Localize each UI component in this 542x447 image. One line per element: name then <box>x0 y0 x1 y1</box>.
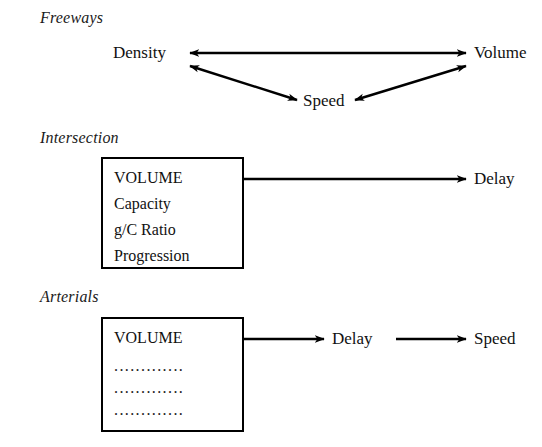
arrow-density-speed <box>190 66 297 100</box>
section-label-intersection: Intersection <box>40 129 119 147</box>
node-arterials-speed: Speed <box>474 330 516 347</box>
intersection-box-line-volume: VOLUME <box>114 170 182 186</box>
arterials-box-placeholder-row-2: ............. <box>114 380 184 396</box>
node-freeways-density: Density <box>113 44 166 61</box>
traffic-relationship-diagram: Freeways Density Volume Speed Intersecti… <box>0 0 542 447</box>
intersection-box-line-gc-ratio: g/C Ratio <box>114 222 176 238</box>
arterials-box-line-volume: VOLUME <box>114 330 182 346</box>
node-arterials-delay: Delay <box>332 330 373 347</box>
node-intersection-delay: Delay <box>474 170 515 187</box>
arrow-speed-volume <box>355 66 466 100</box>
section-label-freeways: Freeways <box>40 9 103 27</box>
node-freeways-speed: Speed <box>303 92 345 109</box>
section-label-arterials: Arterials <box>40 288 99 306</box>
intersection-box-line-progression: Progression <box>114 248 190 264</box>
arterials-box-placeholder-row-1: ............. <box>114 358 184 374</box>
arterials-box-placeholder-row-3: ............. <box>114 402 184 418</box>
node-freeways-volume: Volume <box>474 44 527 61</box>
diagram-arrow-layer <box>0 0 542 447</box>
intersection-box-line-capacity: Capacity <box>114 196 171 212</box>
